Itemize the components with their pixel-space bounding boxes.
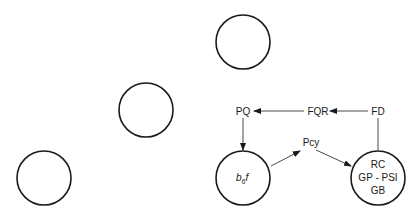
empty-node-bottom-left [17, 151, 71, 205]
arrow-b6f-to-pcy [271, 151, 300, 166]
pcy-label: Pcy [303, 137, 320, 148]
empty-node-middle [119, 83, 173, 137]
arrow-pcy-to-psi [316, 150, 351, 166]
psi-label-rc: RC [371, 159, 385, 170]
psi-label-gp-psi: GP - PSI [358, 172, 397, 183]
pq-label: PQ [236, 106, 251, 117]
empty-node-top [216, 15, 270, 69]
psi-label-gb: GB [371, 185, 386, 196]
fqr-label: FQR [307, 106, 328, 117]
fd-label: FD [371, 106, 384, 117]
b6f-label: b6f [236, 172, 249, 185]
electron-transport-diagram: b6f RC GP - PSI GB PQ FQR FD Pcy [0, 0, 420, 221]
